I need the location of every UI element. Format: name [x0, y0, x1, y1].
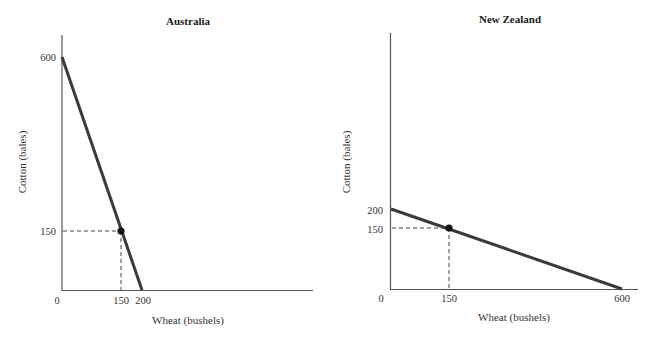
australia-ytick-600: 600	[40, 52, 56, 63]
australia-xtick-150: 150	[113, 295, 129, 306]
new-zealand-x-label: Wheat (bushels)	[478, 311, 550, 324]
new-zealand-ppf-line	[391, 209, 622, 289]
new-zealand-y-label: Cotton (bales)	[340, 130, 353, 193]
new-zealand-ytick-200: 200	[367, 205, 383, 216]
australia-point	[117, 227, 124, 234]
australia-chart: Australia 600 150 0 150 200 Wheat (bushe…	[16, 15, 313, 327]
new-zealand-xtick-600: 600	[614, 293, 630, 304]
new-zealand-point	[445, 224, 452, 231]
australia-ytick-150: 150	[40, 226, 56, 237]
chart-canvas: Australia 600 150 0 150 200 Wheat (bushe…	[0, 0, 653, 340]
new-zealand-chart: New Zealand 200 150 0 150 600 Wheat (bus…	[340, 13, 638, 324]
australia-origin: 0	[54, 295, 59, 306]
new-zealand-origin: 0	[378, 293, 383, 304]
australia-ppf-line	[62, 57, 142, 290]
australia-xtick-200: 200	[135, 295, 151, 306]
new-zealand-title: New Zealand	[479, 13, 541, 25]
australia-y-label: Cotton (bales)	[16, 130, 29, 193]
australia-x-label: Wheat (bushels)	[152, 314, 224, 327]
new-zealand-ytick-150: 150	[367, 224, 383, 235]
new-zealand-xtick-150: 150	[441, 293, 457, 304]
australia-title: Australia	[166, 15, 211, 27]
